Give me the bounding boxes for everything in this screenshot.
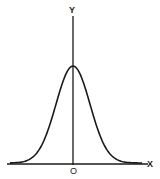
bell-curve — [10, 66, 142, 163]
origin-label: O — [70, 167, 77, 176]
x-axis-label: X — [147, 160, 153, 169]
bell-curve-diagram — [0, 0, 160, 179]
y-axis-label: Y — [69, 6, 75, 15]
